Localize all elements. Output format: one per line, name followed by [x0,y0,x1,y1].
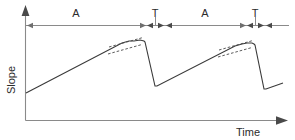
phase-label-a-1: A [72,7,80,19]
plot-axes: Slope Time [5,5,288,138]
x-axis-arrow-icon [276,116,288,125]
span-arrow-left-icon [27,23,33,28]
slope-vs-time-figure: A T A T Slope Time [0,0,295,140]
x-axis-label: Time [236,126,260,138]
phase-label-t-1: T [152,7,159,19]
span-arrow-left-icon [166,23,172,28]
phase-label-a-2: A [201,7,209,19]
y-axis-arrow-icon [22,5,30,16]
span-arrow-left-icon [247,23,253,28]
span-arrow-right-icon [258,23,264,28]
slope-curve-group [26,38,283,94]
dashed-guide-lower-cycle-1 [108,45,142,55]
phase-timeline: A T A T [25,7,289,28]
span-arrow-left-icon [147,23,153,28]
figure-canvas: A T A T Slope Time [0,0,295,140]
span-arrow-left-icon [266,23,272,28]
span-arrow-right-icon [158,23,164,28]
slope-sawtooth-line [26,40,283,93]
span-arrow-right-icon [240,23,246,28]
phase-span-a-2 [240,23,246,28]
y-axis-label: Slope [5,66,17,94]
phase-label-t-2: T [252,7,259,19]
span-arrow-right-icon [140,23,146,28]
